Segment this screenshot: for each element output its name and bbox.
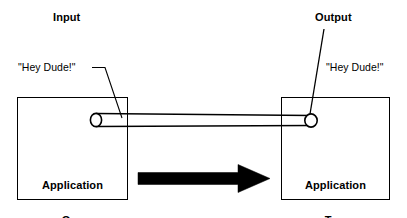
application-one-label-line1: Application [17, 180, 128, 192]
application-one-label-line2: One [17, 215, 128, 218]
input-message-callout: "Hey Dude!" [18, 62, 76, 73]
input-port-circle [90, 113, 101, 126]
pipe-bottom-rail [96, 126, 311, 127]
application-two-label-line1: Application [281, 180, 390, 192]
output-port-circle [305, 114, 317, 127]
output-heading: Output [315, 12, 352, 24]
application-one-label: Application One [17, 156, 128, 218]
application-two-label-line2: Two [281, 215, 390, 218]
flow-direction-arrow [138, 165, 270, 193]
diagram-canvas: Input Output "Hey Dude!" "Hey Dude!" App… [0, 0, 407, 218]
output-message-callout: "Hey Dude!" [326, 62, 384, 73]
input-heading: Input [53, 12, 80, 24]
pipe-top-rail [96, 114, 311, 116]
application-two-label: Application Two [281, 156, 390, 218]
